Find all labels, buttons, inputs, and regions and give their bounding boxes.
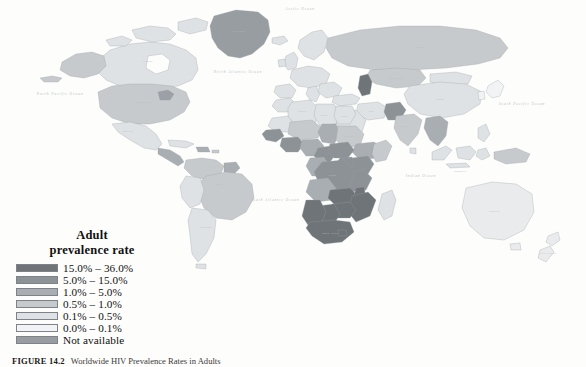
legend-row: Not available [16, 334, 172, 345]
legend-swatch [16, 324, 58, 333]
country-label-congo: Congo [328, 174, 337, 177]
legend-swatch [16, 288, 58, 297]
country-label-mexico: Mexico [123, 130, 133, 133]
ocean-label-south-pacific: South Pacific Ocean [499, 102, 546, 106]
legend-label: 1.0% – 5.0% [63, 287, 122, 298]
legend-title-line2: prevalence rate [12, 243, 172, 258]
legend-row: 15.0% – 36.0% [16, 263, 172, 274]
country-label-indonesia: Indonesia [454, 170, 467, 173]
country-label-greenland: Greenland [231, 30, 245, 33]
country-label-south-africa: South Africa [322, 232, 339, 235]
korea-peninsula [478, 91, 485, 100]
legend-row: 0.1% – 0.5% [16, 310, 172, 321]
legend-label: Not available [63, 335, 124, 346]
country-label-kazakhstan: Kazakhstan [389, 77, 404, 80]
legend-swatch [16, 300, 58, 309]
country-label-egypt: Egypt [340, 115, 347, 118]
ocean-label-indian: Indian Ocean [405, 174, 436, 178]
island-sri-lanka [410, 148, 416, 154]
country-label-libya: Libya [320, 114, 328, 117]
legend-swatch [16, 312, 58, 321]
country-label-algeria: Algeria [297, 110, 307, 113]
legend-row: 1.0% – 5.0% [16, 286, 172, 297]
legend-label: 5.0% – 15.0% [63, 275, 128, 286]
legend-swatch [16, 336, 58, 345]
country-label-australia: Australia [488, 210, 500, 213]
legend-entries: 15.0% – 36.0% 5.0% – 15.0% 1.0% – 5.0% 0… [16, 263, 172, 346]
ocean-label-north-atlantic: North Atlantic Ocean [213, 70, 263, 74]
country-label-sudan: Sudan [344, 135, 352, 138]
legend-title-line1: Adult [12, 228, 172, 243]
country-label-brazil: Brazil [215, 183, 223, 186]
island-tasmania [510, 243, 521, 250]
country-label-russia: Russia [416, 46, 425, 49]
country-lesotho [338, 230, 347, 236]
map-legend: Adult prevalence rate 15.0% – 36.0% 5.0%… [12, 228, 172, 346]
legend-label: 0.0% – 0.1% [63, 323, 122, 334]
legend-row: 0.0% – 0.1% [16, 322, 172, 333]
tierra-del-fuego [196, 264, 206, 269]
country-label-china: China [436, 98, 444, 101]
country-label-canada: Canada [143, 60, 153, 63]
legend-swatch [16, 276, 58, 285]
ocean-label-south-atlantic: South Atlantic Ocean [251, 198, 300, 202]
legend-label: 0.1% – 0.5% [63, 311, 122, 322]
country-label-india: India [401, 125, 408, 128]
legend-title: Adult prevalence rate [12, 228, 172, 258]
legend-swatch [16, 264, 58, 273]
figure-caption: FIGURE 14.2Worldwide HIV Prevalence Rate… [12, 356, 572, 367]
legend-label: 15.0% – 36.0% [63, 263, 133, 274]
country-label-argentina: Argentina [199, 226, 212, 229]
ocean-label-arctic: Arctic Ocean [284, 7, 315, 11]
legend-row: 5.0% – 15.0% [16, 274, 172, 285]
island-puerto-rico [212, 150, 219, 153]
island-java [446, 163, 470, 168]
island-ireland [278, 59, 286, 67]
country-label-iran: Iran [368, 110, 374, 113]
country-label-united-states: United States [135, 101, 152, 104]
figure-caption-label: FIGURE 14.2 [12, 356, 65, 366]
ocean-label-north-pacific: North Pacific Ocean [36, 92, 84, 96]
legend-row: 0.5% – 1.0% [16, 298, 172, 309]
country-label-new-zealand: New Zealand [540, 252, 557, 255]
island-hispaniola [196, 147, 210, 152]
figure-container: North Pacific Ocean North Atlantic Ocean… [0, 0, 586, 367]
figure-caption-text: Worldwide HIV Prevalence Rates in Adults [71, 356, 221, 366]
legend-label: 0.5% – 1.0% [63, 299, 122, 310]
